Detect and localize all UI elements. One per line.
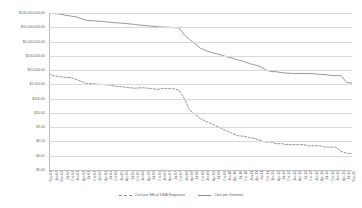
x-axis-tick-label: Jul-04	[110, 171, 114, 180]
x-axis-tick-label: Oct-10	[245, 171, 249, 181]
x-axis-tick-label: Jul-11	[261, 171, 265, 180]
chart-legend: Cost per Mb of DNA Sequence Cost per Gen…	[0, 193, 362, 198]
x-axis-tick-label: Oct-06	[159, 171, 163, 181]
gridline	[49, 141, 352, 142]
legend-item-cost-per-mb[interactable]: Cost per Mb of DNA Sequence	[119, 193, 185, 198]
x-axis-tick-label: Apr-12	[278, 171, 282, 181]
x-axis-tick-label: Jan-08	[186, 171, 190, 181]
x-axis-tick-label: Oct-04	[115, 171, 119, 181]
x-axis-tick-label: Oct-12	[288, 171, 292, 181]
x-axis-tick-label: Apr-06	[148, 171, 152, 181]
y-axis-tick-label: $0.00	[0, 168, 45, 172]
x-axis-tick-label: Jul-02	[67, 171, 71, 180]
legend-item-cost-per-genome[interactable]: Cost per Genome	[198, 193, 243, 198]
y-axis-tick-label: $100,000.00	[0, 54, 45, 58]
gridline	[49, 156, 352, 157]
gridline	[49, 113, 352, 114]
x-axis-tick-label: Oct-09	[224, 171, 228, 181]
series-layer	[49, 13, 352, 170]
x-axis-tick-label: Jan-13	[294, 171, 298, 181]
x-axis-tick-label: Oct-07	[180, 171, 184, 181]
x-axis-tick-label: Jan-11	[251, 171, 255, 181]
legend-label-cost-per-genome: Cost per Genome	[214, 193, 243, 198]
x-axis-tick-label: Oct-11	[267, 171, 271, 181]
y-axis-tick-label: $10,000,000.00	[0, 25, 45, 29]
x-axis-tick-label: Mar-02	[61, 171, 65, 181]
x-axis-tick-label: Apr-07	[169, 171, 173, 181]
y-axis-tick-label: $100.00	[0, 97, 45, 101]
x-axis-tick-label: Jul-06	[153, 171, 157, 180]
y-axis-tick-label: $1.00	[0, 125, 45, 129]
x-axis-tick-label: Apr-09	[213, 171, 217, 181]
x-axis-tick-label: Oct-13	[310, 171, 314, 181]
x-axis-tick-label: Jul-07	[175, 171, 179, 180]
x-axis-tick-label: Apr-04	[105, 171, 109, 181]
x-axis-tick-label: Jan-12	[272, 171, 276, 181]
plot-area	[49, 13, 352, 170]
x-axis-tick-label: Jul-10	[240, 171, 244, 180]
y-axis-tick-label: $10.00	[0, 111, 45, 115]
x-axis-tick-label: Apr-10	[234, 171, 238, 181]
x-axis-tick-label: Oct-08	[202, 171, 206, 181]
y-axis-tick-label: $100,000,000.00	[0, 11, 45, 15]
x-axis-tick-label: Jan-06	[142, 171, 146, 181]
x-axis-tick-label: Jan-03	[77, 171, 81, 181]
y-axis-tick-label: $0.01	[0, 154, 45, 158]
x-axis-tick-label: Oct-14	[332, 171, 336, 181]
x-axis-tick-label: Sep-01	[50, 171, 54, 182]
sequencing-cost-chart: $100,000,000.00$10,000,000.00$1,000,000.…	[0, 0, 362, 208]
legend-swatch-solid-icon	[198, 195, 211, 196]
y-axis-tick-label: $10,000.00	[0, 68, 45, 72]
x-axis-labels: Sep-01Jan-02Mar-02Jul-02Oct-02Jan-03Apr-…	[49, 171, 352, 195]
x-axis-tick-label: Jul-03	[88, 171, 92, 180]
x-axis-tick-label: Jul-09	[218, 171, 222, 180]
x-axis-tick-label: Apr-05	[126, 171, 130, 181]
x-axis-tick-label: Jan-09	[207, 171, 211, 181]
x-axis-tick-label: Jan-14	[316, 171, 320, 181]
gridline	[49, 56, 352, 57]
x-axis-tick-label: Jan-15	[337, 171, 341, 181]
gridline	[49, 13, 352, 14]
gridline	[49, 84, 352, 85]
y-axis-tick-label: $1,000.00	[0, 82, 45, 86]
x-axis-tick-label: Apr-03	[83, 171, 87, 181]
y-axis-line	[49, 13, 50, 170]
x-axis-tick-label: Apr-14	[321, 171, 325, 181]
legend-label-cost-per-mb: Cost per Mb of DNA Sequence	[135, 193, 185, 198]
y-axis-tick-label: $0.10	[0, 139, 45, 143]
gridline	[49, 127, 352, 128]
legend-swatch-dashed-icon	[119, 195, 132, 196]
gridline	[49, 99, 352, 100]
x-axis-tick-label: Jan-10	[229, 171, 233, 181]
x-axis-tick-label: Jan-04	[99, 171, 103, 181]
gridline	[49, 27, 352, 28]
x-axis-tick-label: Apr-15	[343, 171, 347, 181]
x-axis-tick-label: Oct-03	[94, 171, 98, 181]
gridline	[49, 70, 352, 71]
x-axis-tick-label: Jul-13	[305, 171, 309, 180]
x-axis-tick-label: Jan-05	[121, 171, 125, 181]
x-axis-tick-label: Jan-02	[56, 171, 60, 181]
x-axis-tick-label: Jul-08	[196, 171, 200, 180]
x-axis-tick-label: Sep-15	[353, 171, 357, 182]
x-axis-tick-label: Jul-05	[132, 171, 136, 180]
x-axis-tick-label: Apr-13	[299, 171, 303, 181]
line-cost-per-genome	[49, 13, 352, 83]
x-axis-tick-label: Jul-14	[326, 171, 330, 180]
gridline	[49, 42, 352, 43]
y-axis-tick-label: $1,000,000.00	[0, 40, 45, 44]
